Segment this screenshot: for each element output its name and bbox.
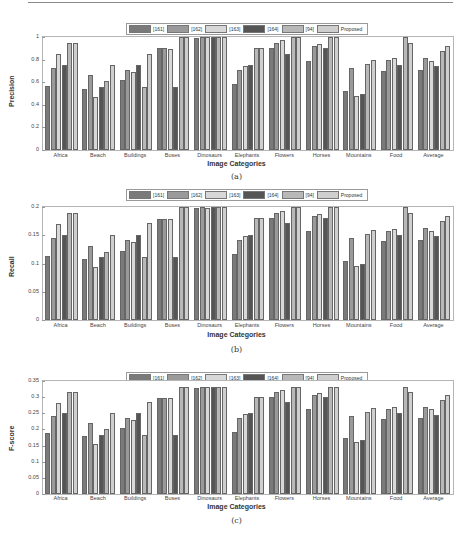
bar bbox=[88, 75, 93, 150]
bar bbox=[237, 70, 242, 150]
bar bbox=[445, 395, 450, 494]
legend-label: [162] bbox=[191, 192, 202, 198]
bar bbox=[296, 37, 301, 150]
bar bbox=[381, 241, 386, 320]
y-tick-label: 0.6 bbox=[31, 78, 39, 84]
bar bbox=[243, 66, 248, 150]
x-tick-label: Flowers bbox=[264, 322, 304, 328]
bar bbox=[179, 387, 184, 495]
bar bbox=[179, 207, 184, 320]
bar bbox=[392, 58, 397, 150]
bar bbox=[162, 219, 167, 320]
x-tick-label: Food bbox=[376, 495, 416, 501]
bar bbox=[285, 54, 290, 150]
x-tick-label: Elephants bbox=[227, 322, 267, 328]
bar bbox=[104, 429, 109, 494]
bar bbox=[354, 266, 359, 320]
bar bbox=[205, 37, 210, 150]
legend-swatch bbox=[282, 25, 304, 33]
bar-group-mountains bbox=[343, 37, 376, 150]
bar-group-horses bbox=[306, 37, 339, 150]
bar bbox=[222, 207, 227, 320]
y-tick-label: 0.25 bbox=[28, 409, 39, 415]
bar bbox=[306, 231, 311, 320]
legend-label: [94] bbox=[306, 26, 314, 32]
subfigure-caption: (a) bbox=[0, 172, 473, 181]
bar-group-elephants bbox=[232, 37, 265, 150]
bar bbox=[274, 213, 279, 320]
bar bbox=[216, 37, 221, 150]
bar-group-horses bbox=[306, 207, 339, 320]
bar bbox=[211, 387, 216, 495]
bar-group-horses bbox=[306, 381, 339, 494]
bar-group-buildings bbox=[120, 207, 153, 320]
plot-area bbox=[42, 36, 454, 151]
bar bbox=[194, 388, 199, 494]
bar bbox=[232, 254, 237, 320]
bar bbox=[67, 43, 72, 150]
bar bbox=[82, 89, 87, 150]
bar bbox=[371, 408, 376, 494]
legend-swatch bbox=[167, 25, 189, 33]
bar bbox=[365, 64, 370, 150]
bar bbox=[291, 37, 296, 150]
bar bbox=[296, 387, 301, 495]
bar bbox=[125, 418, 130, 494]
x-tick-label: Buildings bbox=[115, 152, 155, 158]
bar bbox=[312, 216, 317, 320]
bar-group-buses bbox=[157, 37, 190, 150]
x-tick-label: Beach bbox=[78, 322, 118, 328]
bar bbox=[445, 216, 450, 320]
bar bbox=[248, 65, 253, 150]
bar bbox=[237, 240, 242, 320]
bar bbox=[131, 242, 136, 320]
legend-item: [162] bbox=[167, 25, 202, 33]
bar bbox=[291, 387, 296, 495]
legend-item: [164] bbox=[243, 25, 278, 33]
x-tick-label: Average bbox=[413, 495, 453, 501]
bar bbox=[323, 218, 328, 320]
bar bbox=[120, 80, 125, 150]
legend-label: [163] bbox=[229, 26, 240, 32]
x-axis-label: Image Categories bbox=[0, 160, 473, 167]
bar bbox=[67, 392, 72, 494]
legend-label: [162] bbox=[191, 26, 202, 32]
bar-group-flowers bbox=[269, 381, 302, 494]
bar bbox=[328, 37, 333, 150]
bar-group-flowers bbox=[269, 207, 302, 320]
x-tick-label: Flowers bbox=[264, 152, 304, 158]
bar bbox=[62, 413, 67, 494]
bar bbox=[306, 409, 311, 494]
bar bbox=[93, 267, 98, 320]
bar bbox=[82, 259, 87, 320]
x-tick-label: Mountains bbox=[339, 152, 379, 158]
bar-group-beach bbox=[82, 207, 115, 320]
y-tick-label: 0.35 bbox=[28, 377, 39, 383]
x-tick-label: Food bbox=[376, 322, 416, 328]
y-axis-label: Recall bbox=[8, 256, 15, 277]
bar bbox=[73, 392, 78, 494]
legend-swatch bbox=[129, 25, 151, 33]
bar bbox=[168, 49, 173, 150]
y-tick-label: 0 bbox=[36, 316, 39, 322]
bar bbox=[312, 46, 317, 150]
y-tick-label: 0 bbox=[36, 490, 39, 496]
bar bbox=[110, 413, 115, 494]
bar bbox=[371, 60, 376, 150]
bar bbox=[434, 66, 439, 150]
y-tick-label: 0 bbox=[36, 146, 39, 152]
legend-item: [161] bbox=[129, 25, 164, 33]
y-tick-label: 0.1 bbox=[31, 260, 39, 266]
x-tick-label: Horses bbox=[302, 152, 342, 158]
bar bbox=[259, 397, 264, 494]
bar bbox=[243, 414, 248, 494]
bar-group-mountains bbox=[343, 207, 376, 320]
x-tick-label: Flowers bbox=[264, 495, 304, 501]
bar bbox=[82, 436, 87, 494]
bar bbox=[423, 228, 428, 320]
bar bbox=[429, 409, 434, 494]
plot-area bbox=[42, 380, 454, 495]
bar bbox=[131, 420, 136, 494]
bar bbox=[349, 416, 354, 494]
legend-swatch bbox=[317, 191, 339, 199]
